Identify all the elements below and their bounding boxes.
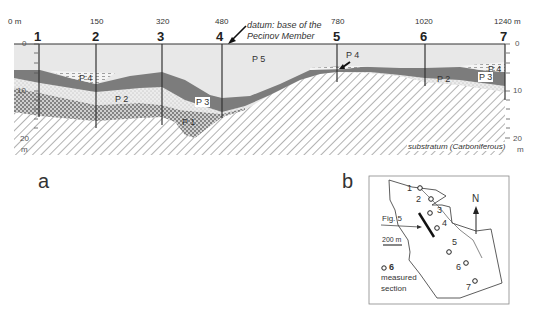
distance-label-4: 480: [215, 17, 228, 26]
section-number-2: 2: [92, 29, 99, 44]
legend-number: 6: [389, 262, 394, 272]
map-point-label-7: 7: [466, 282, 471, 292]
cross-section-figure: [0, 0, 544, 312]
map-point-label-2: 2: [416, 194, 421, 204]
fig5-label: Fig. 5: [382, 214, 402, 223]
datum-annotation-line2: Pecinov Member: [247, 31, 315, 41]
legend-text-line1: measured: [381, 273, 417, 282]
depth-label-right-10: 10: [513, 86, 522, 95]
section-number-1: 1: [34, 29, 41, 44]
unit-label-p2-left: P 2: [115, 94, 128, 104]
unit-label-p2-right: P 2: [437, 74, 450, 84]
distance-label-3: 320: [156, 17, 169, 26]
legend-text-line2: section: [381, 284, 406, 293]
legend-section-symbol-icon: [382, 266, 386, 270]
substratum-label: substratum (Carboniferous): [407, 142, 506, 151]
distance-label-5: 780: [331, 17, 344, 26]
unit-label-p3-right: P 3: [478, 72, 493, 82]
scale-label: 200 m: [382, 236, 401, 243]
unit-label-p4-left: P 4: [79, 73, 92, 83]
depth-axis-right: [505, 44, 510, 138]
section-number-3: 3: [157, 29, 164, 44]
panel-label-b: b: [342, 170, 353, 193]
map-point-label-3: 3: [437, 205, 442, 215]
section-number-6: 6: [420, 29, 427, 44]
unit-label-p1: P 1: [182, 117, 195, 127]
unit-label-p3: P 3: [195, 97, 210, 107]
depth-unit-left: m: [21, 145, 28, 154]
panel-label-a: a: [38, 170, 49, 193]
depth-unit-right: m: [517, 145, 524, 154]
map-point-label-6: 6: [456, 262, 461, 272]
datum-annotation-line1: datum: base of the: [247, 20, 322, 30]
distance-label-1: 0 m: [8, 17, 21, 26]
depth-label-left-0: 0: [22, 39, 26, 48]
unit-label-p4-center: P 4: [346, 50, 359, 60]
depth-label-right-0: 0: [515, 39, 519, 48]
map-point-label-4: 4: [442, 218, 447, 228]
section-number-4: 4: [216, 29, 223, 44]
depth-label-left-20: 20: [20, 134, 29, 143]
section-number-7: 7: [500, 29, 507, 44]
datum-arrow-icon: [228, 26, 246, 44]
depth-label-left-10: 10: [17, 86, 26, 95]
distance-label-2: 150: [90, 17, 103, 26]
distance-label-7: 1240 m: [494, 17, 521, 26]
north-label: N: [472, 193, 479, 204]
section-number-5: 5: [333, 29, 340, 44]
distance-label-6: 1020: [415, 17, 433, 26]
depth-label-right-20: 20: [513, 134, 522, 143]
map-point-label-1: 1: [407, 183, 412, 193]
unit-label-p5: P 5: [252, 54, 265, 64]
map-point-label-5: 5: [452, 237, 457, 247]
